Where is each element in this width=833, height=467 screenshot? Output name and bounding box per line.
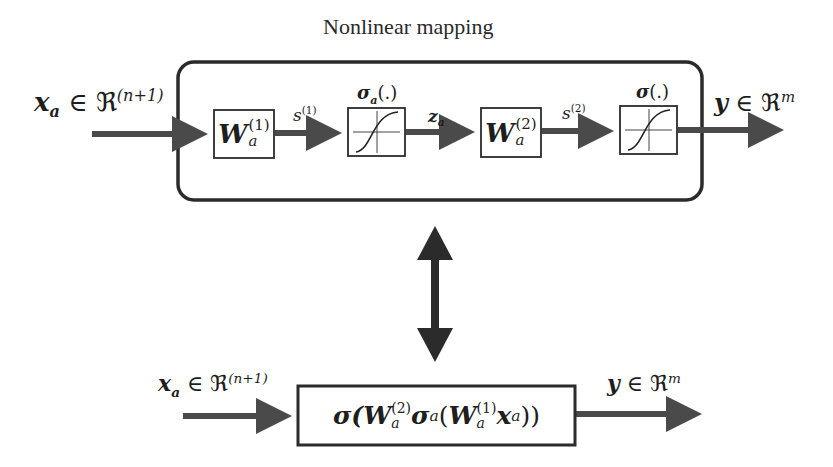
top-input-label: xa ∈ ℜ(n+1) (34, 88, 163, 120)
sigma-a-label: σa(.) (357, 84, 397, 106)
s2-label: s(2) (562, 103, 586, 122)
bottom-output-label: y ∈ ℜm (607, 372, 681, 395)
sigma-a-block (348, 108, 405, 156)
w2-label: W(2)a (481, 108, 541, 157)
w1-label: W(1)a (214, 110, 274, 158)
sigma-block (620, 106, 677, 154)
double-arrow-vertical-icon (417, 226, 453, 362)
sigma-label: σ(.) (636, 83, 669, 101)
diagram-title: Nonlinear mapping (323, 16, 493, 38)
top-output-label: y ∈ ℜm (714, 90, 795, 115)
bottom-input-label: xa ∈ ℜ(n+1) (158, 372, 268, 399)
s1-label: s(1) (293, 105, 317, 124)
composite-function-expression: σ( W(2)a σa( W(1)a xa)) (298, 386, 575, 445)
za-label: za (428, 108, 444, 128)
